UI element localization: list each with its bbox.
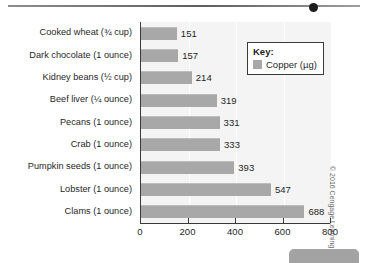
category-label: Lobster (1 ounce) <box>0 178 136 200</box>
bar-row: 331 <box>141 111 331 133</box>
x-axis-tick-label: 400 <box>227 226 243 237</box>
category-label: Clams (1 ounce) <box>0 201 136 223</box>
bar-row: 688 <box>141 201 331 223</box>
legend-entry: Copper (µg) <box>253 59 317 70</box>
legend-entry-label: Copper (µg) <box>266 59 317 70</box>
bar-value-label: 319 <box>221 95 237 106</box>
x-axis-tick-label: 800 <box>322 226 338 237</box>
bar-value-label: 157 <box>182 50 198 61</box>
legend-swatch-icon <box>253 60 262 69</box>
bar <box>141 71 192 84</box>
bar <box>141 161 234 174</box>
bar-value-label: 331 <box>224 117 240 128</box>
category-axis-labels: Cooked wheat (¾ cup)Dark chocolate (1 ou… <box>0 22 136 223</box>
x-axis-tick <box>140 218 141 223</box>
bar <box>141 94 217 107</box>
x-axis-tick <box>188 218 189 223</box>
bar <box>141 116 220 129</box>
bar <box>141 49 178 62</box>
divider-marker-dot <box>309 3 318 12</box>
bar-value-label: 393 <box>238 162 254 173</box>
category-label: Pecans (1 ounce) <box>0 111 136 133</box>
category-label: Crab (1 ounce) <box>0 134 136 156</box>
category-label: Kidney beans (½ cup) <box>0 67 136 89</box>
category-label: Pumpkin seeds (1 ounce) <box>0 156 136 178</box>
bar-value-label: 547 <box>275 184 291 195</box>
x-axis-tick-label: 0 <box>137 226 142 237</box>
bar-chart-figure: Cooked wheat (¾ cup)Dark chocolate (1 ou… <box>0 18 368 243</box>
bar-value-label: 214 <box>196 72 212 83</box>
top-divider-rule <box>8 5 360 7</box>
x-axis-tick <box>283 218 284 223</box>
corner-tab <box>289 249 359 263</box>
bar-row: 393 <box>141 156 331 178</box>
x-axis-tick <box>330 218 331 223</box>
x-axis-tick <box>235 218 236 223</box>
bar-row: 319 <box>141 89 331 111</box>
category-label: Beef liver (¼ ounce) <box>0 89 136 111</box>
bar <box>141 205 304 218</box>
x-axis-line <box>140 223 330 224</box>
bar-value-label: 688 <box>308 206 324 217</box>
category-label: Cooked wheat (¾ cup) <box>0 22 136 44</box>
bar-value-label: 333 <box>224 139 240 150</box>
category-label: Dark chocolate (1 ounce) <box>0 44 136 66</box>
bar-row: 333 <box>141 134 331 156</box>
bar-row: 547 <box>141 178 331 200</box>
x-axis-tick-label: 200 <box>180 226 196 237</box>
bar <box>141 183 271 196</box>
chart-legend: Key: Copper (µg) <box>247 42 324 75</box>
legend-title: Key: <box>253 46 317 57</box>
bar <box>141 27 177 40</box>
x-axis-tick-label: 600 <box>275 226 291 237</box>
bar-row: 151 <box>141 22 331 44</box>
bar-value-label: 151 <box>181 28 197 39</box>
bar <box>141 138 220 151</box>
